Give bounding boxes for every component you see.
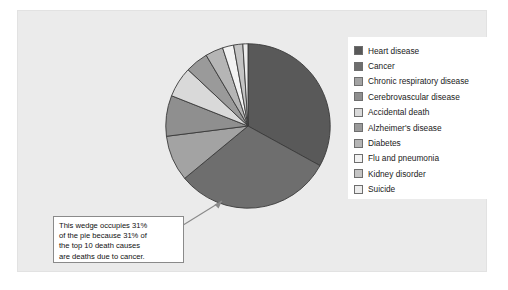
pie-chart [165,43,331,209]
chart-legend: Heart disease Cancer Chronic respiratory… [348,37,488,199]
callout-line: are deaths due to cancer. [59,252,178,262]
legend-item-chronic-respiratory-disease[interactable]: Chronic respiratory disease [354,74,482,89]
legend-item-alzheimers-disease[interactable]: Alzheimer's disease [354,120,482,135]
legend-item-label: Chronic respiratory disease [368,76,469,86]
legend-swatch-icon [354,139,363,148]
legend-item-label: Cerebrovascular disease [368,92,460,102]
legend-swatch-icon [354,92,363,101]
legend-item-flu-and-pneumonia[interactable]: Flu and pneumonia [354,151,482,166]
pie-slice-group [166,44,330,208]
legend-item-label: Flu and pneumonia [368,153,439,163]
legend-swatch-icon [354,77,363,86]
legend-item-label: Heart disease [368,46,419,56]
legend-swatch-icon [354,46,363,55]
legend-item-label: Kidney disorder [368,169,426,179]
legend-swatch-icon [354,123,363,132]
callout-annotation-box: This wedge occupies 31% of the pie becau… [53,216,184,263]
legend-item-label: Diabetes [368,138,401,148]
legend-swatch-icon [354,62,363,71]
callout-line: This wedge occupies 31% [59,221,178,231]
legend-swatch-icon [354,169,363,178]
legend-item-label: Suicide [368,184,395,194]
legend-swatch-icon [354,108,363,117]
legend-item-label: Cancer [368,61,395,71]
figure-frame: Heart disease Cancer Chronic respiratory… [17,10,487,272]
legend-item-diabetes[interactable]: Diabetes [354,135,482,150]
chart-screenshot: Heart disease Cancer Chronic respiratory… [0,0,508,290]
legend-item-accidental-death[interactable]: Accidental death [354,105,482,120]
legend-item-cancer[interactable]: Cancer [354,58,482,73]
legend-swatch-icon [354,154,363,163]
callout-line: the top 10 death causes [59,241,178,251]
legend-item-label: Accidental death [368,107,429,117]
legend-swatch-icon [354,185,363,194]
legend-item-label: Alzheimer's disease [368,123,442,133]
legend-item-heart-disease[interactable]: Heart disease [354,43,482,58]
legend-item-kidney-disorder[interactable]: Kidney disorder [354,166,482,181]
legend-item-suicide[interactable]: Suicide [354,182,482,197]
pie-chart-svg [165,43,331,209]
callout-line: of the pie because 31% of [59,231,178,241]
legend-item-cerebrovascular-disease[interactable]: Cerebrovascular disease [354,89,482,104]
